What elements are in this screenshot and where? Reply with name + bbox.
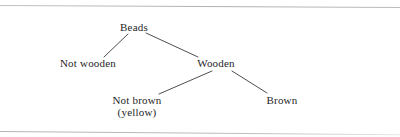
tree-node-not-wooden-label: Not wooden xyxy=(60,57,116,69)
classification-tree-diagram: Beads Not wooden Wooden Not brown (yello… xyxy=(0,0,400,137)
tree-node-root-label: Beads xyxy=(120,21,148,33)
tree-node-root: Beads xyxy=(104,21,164,33)
tree-node-brown: Brown xyxy=(242,94,322,106)
tree-node-brown-label: Brown xyxy=(267,94,298,106)
edge-root-to-not-wooden xyxy=(104,34,128,57)
edge-wooden-to-brown xyxy=(232,71,267,93)
tree-node-wooden-label: Wooden xyxy=(197,57,235,69)
tree-node-not-brown: Not brown (yellow) xyxy=(87,94,187,118)
figure-page: Beads Not wooden Wooden Not brown (yello… xyxy=(0,0,400,137)
edge-wooden-to-not-brown xyxy=(159,71,212,94)
edge-root-to-wooden xyxy=(146,33,198,57)
tree-node-not-brown-label: Not brown xyxy=(112,94,161,106)
tree-node-not-brown-sublabel: (yellow) xyxy=(87,106,187,118)
tree-node-wooden: Wooden xyxy=(176,57,256,69)
tree-node-not-wooden: Not wooden xyxy=(38,57,138,69)
